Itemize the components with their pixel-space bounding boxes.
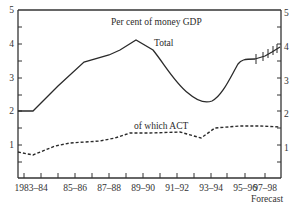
x-label-97-98: 97–98	[253, 183, 277, 193]
plot-frame	[18, 10, 281, 178]
y-right-label-5: 5	[284, 8, 289, 18]
series-label-act: of which ACT	[134, 121, 189, 131]
forecast-hatch-marks	[256, 44, 277, 64]
y-label-5: 5	[9, 5, 14, 15]
x-label-forecast: Forecast	[251, 194, 284, 204]
y-right-label-3: 3	[284, 76, 289, 86]
y-right-label-2: 2	[284, 109, 289, 119]
x-axis-ticks	[24, 173, 265, 178]
x-label-93-94: 93–94	[199, 183, 223, 193]
y-label-3: 3	[9, 73, 14, 83]
x-label-87-88: 87–88	[97, 183, 121, 193]
y-axis-right-labels: 5 4 3 2 1	[284, 8, 289, 153]
x-axis-labels: 1983–84 85–86 87–88 89–90 91–92 93–94 95…	[14, 183, 283, 204]
y-right-label-4: 4	[284, 42, 289, 52]
line-chart: 5 4 3 2 1 5 4 3 2 1 1983–84 85–86 87–88 …	[0, 0, 296, 206]
series-label-total: Total	[154, 38, 174, 48]
x-label-85-86: 85–86	[63, 183, 87, 193]
x-label-89-90: 89–90	[131, 183, 155, 193]
x-label-91-92: 91–92	[165, 183, 189, 193]
x-label-1983-84: 1983–84	[14, 183, 48, 193]
y-label-2: 2	[9, 106, 14, 116]
series-total-line	[18, 40, 255, 111]
chart-title: Per cent of money GDP	[111, 17, 202, 27]
y-right-label-1: 1	[284, 143, 289, 153]
y-axis-left-labels: 5 4 3 2 1	[9, 5, 14, 150]
y-label-1: 1	[9, 140, 14, 150]
y-label-4: 4	[9, 39, 14, 49]
